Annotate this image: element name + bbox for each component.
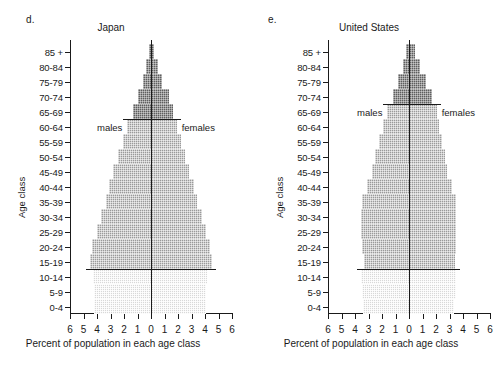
bar-males-59 xyxy=(94,284,151,299)
population-pyramid-figure: d. Japan Age class Percent of population… xyxy=(0,0,501,367)
x-axis-label: 4 xyxy=(352,324,358,335)
bar-males-4044 xyxy=(367,179,409,194)
y-axis-label-2529: 25-29 xyxy=(297,226,321,237)
bar-males-5559 xyxy=(123,134,151,149)
females-annotation: females xyxy=(442,106,475,117)
bar-males-2529 xyxy=(97,224,151,239)
y-axis-label-1014: 10-14 xyxy=(297,271,321,282)
x-axis-tick xyxy=(396,314,397,319)
bar-females-4549 xyxy=(151,164,189,179)
x-axis-tick xyxy=(192,314,193,319)
x-axis-tick xyxy=(70,314,71,319)
x-axis-label: 2 xyxy=(175,324,181,335)
y-axis-tick xyxy=(323,232,328,233)
bar-males-7579 xyxy=(398,74,409,89)
y-axis-tick xyxy=(323,97,328,98)
y-axis-tick xyxy=(323,52,328,53)
bar-females-2024 xyxy=(151,239,210,254)
x-axis-label: 2 xyxy=(121,324,127,335)
bar-females-04 xyxy=(151,299,206,314)
x-axis-label: 2 xyxy=(433,324,439,335)
x-axis-label: 3 xyxy=(108,324,114,335)
bar-females-3034 xyxy=(151,209,202,224)
x-axis-tick xyxy=(178,314,179,319)
x-axis-title-japan: Percent of population in each age class xyxy=(0,338,238,349)
y-axis-tick xyxy=(323,307,328,308)
y-axis-tick xyxy=(323,277,328,278)
y-axis-tick xyxy=(65,67,70,68)
bar-females-2529 xyxy=(151,224,206,239)
y-axis-tick xyxy=(65,112,70,113)
x-axis-label: 4 xyxy=(460,324,466,335)
bar-females-6064 xyxy=(409,119,439,134)
y-axis-line xyxy=(70,40,71,314)
bar-males-6064 xyxy=(127,119,151,134)
bar-males-7074 xyxy=(393,89,409,104)
y-axis-tick xyxy=(65,127,70,128)
x-axis-tick xyxy=(450,314,451,319)
bar-females-5559 xyxy=(151,134,181,149)
bar-males-3034 xyxy=(101,209,151,224)
bar-females-7579 xyxy=(409,74,426,89)
y-axis-label-6569: 65-69 xyxy=(39,106,63,117)
x-axis-tick xyxy=(355,314,356,319)
y-axis-label-3539: 35-39 xyxy=(39,196,63,207)
x-axis-label: 0 xyxy=(406,324,412,335)
y-axis-tick xyxy=(323,202,328,203)
bar-males-7074 xyxy=(138,89,152,104)
y-axis-label-04: 0-4 xyxy=(308,301,321,312)
y-axis-tick xyxy=(323,67,328,68)
bar-females-4044 xyxy=(409,179,452,194)
x-axis-tick xyxy=(463,314,464,319)
x-axis-label: 1 xyxy=(135,324,141,335)
bar-males-5054 xyxy=(118,149,151,164)
y-axis-tick xyxy=(65,292,70,293)
bar-males-2024 xyxy=(362,239,409,254)
bar-females-59 xyxy=(409,284,456,299)
x-axis-tick xyxy=(409,314,410,319)
y-axis-tick xyxy=(65,262,70,263)
x-axis-label: 5 xyxy=(339,324,345,335)
y-axis-label-4549: 45-49 xyxy=(39,166,63,177)
y-axis-tick xyxy=(323,82,328,83)
x-axis-tick xyxy=(423,314,424,319)
bar-males-4044 xyxy=(109,179,151,194)
bar-females-4044 xyxy=(151,179,194,194)
x-axis-tick xyxy=(342,314,343,319)
x-axis-label: 4 xyxy=(94,324,100,335)
y-axis-line xyxy=(328,40,329,314)
y-axis-label-59: 5-9 xyxy=(308,286,321,297)
x-axis-label: 3 xyxy=(189,324,195,335)
x-axis-label: 3 xyxy=(366,324,372,335)
x-axis-label: 5 xyxy=(474,324,480,335)
y-axis-label-6569: 65-69 xyxy=(297,106,321,117)
bar-females-5559 xyxy=(409,134,442,149)
bar-females-1519 xyxy=(409,254,455,269)
y-axis-label-2024: 20-24 xyxy=(297,241,321,252)
x-axis-label: 6 xyxy=(487,324,493,335)
y-axis-label-1014: 10-14 xyxy=(39,271,63,282)
x-axis-tick xyxy=(84,314,85,319)
females-annotation: females xyxy=(182,121,215,132)
bar-females-2529 xyxy=(409,224,456,239)
bar-males-7579 xyxy=(143,74,151,89)
bar-females-7579 xyxy=(151,74,162,89)
x-axis-label: 5 xyxy=(216,324,222,335)
bar-males-1519 xyxy=(364,254,409,269)
y-axis-label-5559: 55-59 xyxy=(297,136,321,147)
x-axis-label: 1 xyxy=(393,324,399,335)
y-axis-tick xyxy=(65,217,70,218)
x-axis-label: 1 xyxy=(420,324,426,335)
plot-area-united-states: 85 +80-8475-7970-7465-6960-6455-5950-544… xyxy=(328,44,490,314)
bar-males-6064 xyxy=(383,119,409,134)
y-axis-label-3034: 30-34 xyxy=(297,211,321,222)
bar-females-8084 xyxy=(151,59,158,74)
x-axis-label: 1 xyxy=(162,324,168,335)
y-axis-tick xyxy=(65,172,70,173)
bar-females-8084 xyxy=(409,59,420,74)
y-axis-tick xyxy=(65,82,70,83)
y-axis-tick xyxy=(65,202,70,203)
bar-females-5054 xyxy=(151,149,185,164)
males-annotation: males xyxy=(357,106,382,117)
bar-males-6569 xyxy=(387,104,409,119)
